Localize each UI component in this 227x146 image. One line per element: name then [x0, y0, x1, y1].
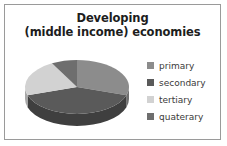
- chart-frame: Developing (middle income) economies pri…: [4, 4, 221, 140]
- legend-swatch-icon-secondary: [147, 79, 154, 86]
- legend-item-primary[interactable]: primary: [147, 57, 225, 74]
- pie-chart: [15, 45, 143, 137]
- chart-title: Developing (middle income) economies: [5, 11, 220, 39]
- chart-title-line-2: (middle income) economies: [5, 25, 220, 39]
- legend-label-primary: primary: [159, 61, 194, 71]
- legend-swatch-icon-tertiary: [147, 96, 154, 103]
- legend-label-tertiary: tertiary: [159, 95, 192, 105]
- legend-label-quaterary: quaterary: [159, 112, 203, 122]
- chart-legend: primary secondary tertiary quaterary: [147, 57, 225, 125]
- legend-item-tertiary[interactable]: tertiary: [147, 91, 225, 108]
- chart-title-line-1: Developing: [5, 11, 220, 25]
- legend-item-quaterary[interactable]: quaterary: [147, 108, 225, 125]
- legend-swatch-icon-primary: [147, 62, 154, 69]
- legend-swatch-icon-quaterary: [147, 113, 154, 120]
- legend-label-secondary: secondary: [159, 78, 206, 88]
- pie-chart-svg: [15, 45, 143, 137]
- legend-item-secondary[interactable]: secondary: [147, 74, 225, 91]
